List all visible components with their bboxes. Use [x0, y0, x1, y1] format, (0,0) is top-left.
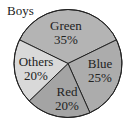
label-red: Red 20%: [45, 85, 89, 113]
chart-title: Boys: [7, 4, 34, 17]
label-others-name: Others: [14, 55, 58, 69]
label-green-name: Green: [44, 19, 88, 33]
label-red-pct: 20%: [45, 99, 89, 113]
label-others-pct: 20%: [14, 69, 58, 83]
label-others: Others 20%: [14, 55, 58, 83]
label-green: Green 35%: [44, 19, 88, 47]
label-red-name: Red: [45, 85, 89, 99]
label-green-pct: 35%: [44, 33, 88, 47]
label-blue-name: Blue: [78, 57, 122, 71]
label-blue: Blue 25%: [78, 57, 122, 85]
label-blue-pct: 25%: [78, 71, 122, 85]
pie-chart: Boys Green 35% Blue 25% Red 20% Others 2…: [0, 0, 123, 129]
